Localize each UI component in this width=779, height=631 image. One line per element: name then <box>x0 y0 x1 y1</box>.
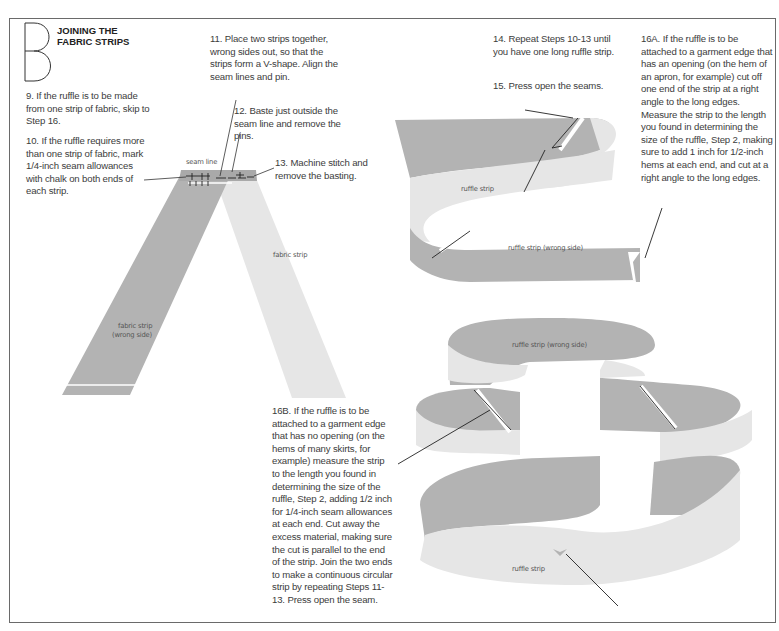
circular-ruffle-illustration <box>398 318 752 606</box>
label-fabric-strip-wrong-2: (wrong side) <box>112 331 152 339</box>
step-11: 11. Place two strips together, wrong sid… <box>210 33 345 83</box>
step-14: 14. Repeat Steps 10-13 until you have on… <box>493 33 618 58</box>
step-16b: 16B. If the ruffle is to be attached to … <box>272 405 394 607</box>
label-fabric-strip: fabric strip <box>273 251 307 259</box>
step-13: 13. Machine stitch and remove the bastin… <box>275 157 375 182</box>
label-seam-line: seam line <box>186 158 217 166</box>
step-15: 15. Press open the seams. <box>493 80 618 93</box>
step-12: 12. Baste just outside the seam line and… <box>234 105 349 143</box>
label-ruffle-strip-2: ruffle strip <box>512 565 545 573</box>
step-16a: 16A. If the ruffle is to be attached to … <box>641 33 773 184</box>
s-ruffle-illustration <box>395 110 662 282</box>
label-fabric-strip-wrong-1: fabric strip <box>118 322 152 330</box>
label-ruffle-strip-wrong-1: ruffle strip (wrong side) <box>508 244 583 252</box>
step-9: 9. If the ruffle is to be made from one … <box>26 90 151 128</box>
step-10: 10. If the ruffle requires more than one… <box>26 135 151 198</box>
label-ruffle-strip-wrong-2: ruffle strip (wrong side) <box>512 341 587 349</box>
label-ruffle-strip-1: ruffle strip <box>461 185 494 193</box>
